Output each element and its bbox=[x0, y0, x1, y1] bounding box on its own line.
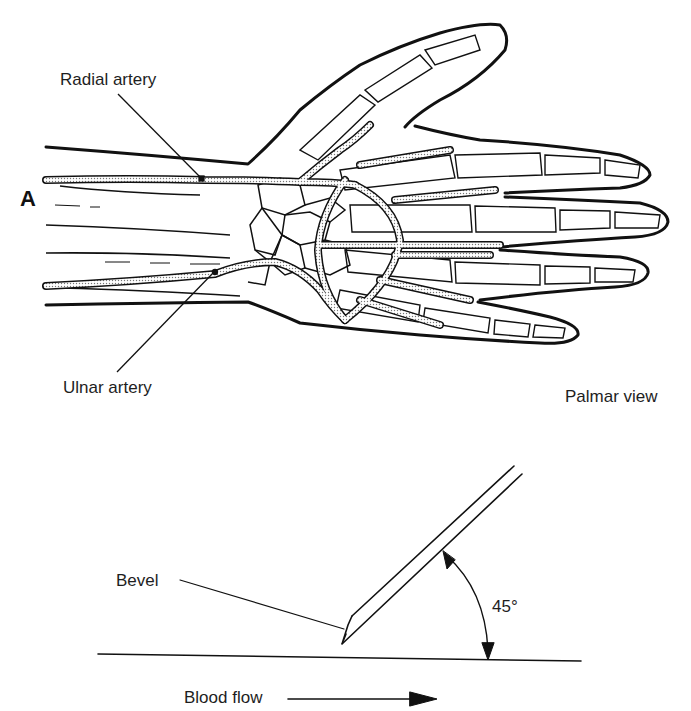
angle-arrow-top bbox=[443, 551, 455, 569]
arteries bbox=[46, 125, 500, 325]
angle-label: 45° bbox=[492, 597, 518, 617]
panel-letter: A bbox=[20, 186, 36, 212]
angle-arrow-bottom bbox=[482, 643, 494, 660]
needle-diagram bbox=[98, 466, 581, 706]
radial-artery-label: Radial artery bbox=[60, 70, 156, 90]
bevel-label: Bevel bbox=[116, 571, 159, 591]
blood-flow-label: Blood flow bbox=[184, 688, 262, 708]
needle bbox=[342, 466, 522, 644]
flow-arrow-head bbox=[410, 692, 437, 706]
bevel-leader bbox=[180, 580, 344, 629]
angle-arc bbox=[447, 556, 488, 650]
ulnar-artery-label: Ulnar artery bbox=[63, 378, 152, 398]
anatomy-illustration bbox=[0, 0, 691, 711]
palmar-view-label: Palmar view bbox=[565, 387, 658, 407]
vessel-wall-line bbox=[98, 654, 581, 661]
